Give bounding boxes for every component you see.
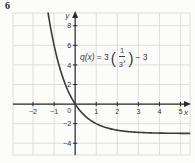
svg-text:2: 2 xyxy=(67,80,71,89)
equation-constant: − 3 xyxy=(135,52,147,62)
svg-text:8: 8 xyxy=(67,21,71,30)
svg-text:2: 2 xyxy=(115,107,119,116)
function-label: q(x) = 3 ( 1 3x ) − 3 xyxy=(80,47,147,68)
fraction-numerator: 1 xyxy=(120,47,124,55)
fraction-denominator: 3x xyxy=(119,59,126,68)
open-paren: ( xyxy=(111,49,116,66)
svg-text:−2: −2 xyxy=(63,119,71,128)
svg-text:1: 1 xyxy=(94,107,98,116)
close-paren: ) xyxy=(128,49,133,66)
tick-labels: −2−1012345−4−22468yx xyxy=(29,11,189,148)
svg-text:4: 4 xyxy=(67,61,71,70)
graph-panel: 6 −2−1012345−4−22468yx q(x) = 3 ( 1 3x )… xyxy=(0,0,195,163)
equation-equals: = 3 xyxy=(97,52,109,62)
svg-text:y: y xyxy=(64,11,70,20)
svg-text:3: 3 xyxy=(136,107,140,116)
svg-text:6: 6 xyxy=(67,41,71,50)
svg-text:−4: −4 xyxy=(63,139,71,148)
svg-text:4: 4 xyxy=(157,107,161,116)
function-name: q(x) xyxy=(80,52,95,62)
function-graph: −2−1012345−4−22468yx xyxy=(0,0,195,163)
svg-text:−1: −1 xyxy=(50,107,58,116)
fraction: 1 3x xyxy=(118,47,127,68)
svg-text:5: 5 xyxy=(179,107,183,116)
svg-text:x: x xyxy=(183,108,189,117)
svg-text:0: 0 xyxy=(67,106,71,115)
svg-text:−2: −2 xyxy=(29,107,37,116)
